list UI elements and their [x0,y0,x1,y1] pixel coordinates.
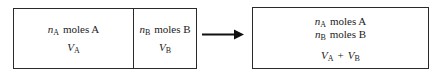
final-volume-symbol-a: V [321,49,328,61]
volume-b-subscript: B [166,46,171,55]
final-state-box: nAmoles A nBmoles B VA+VB [252,7,429,69]
plus-operator: + [338,49,344,61]
final-volume-subscript-b: B [355,54,360,63]
compartment-a: nAmoles A VA [14,9,134,68]
final-moles-b-line: nBmoles B [315,28,366,41]
initial-state-box: nAmoles A VA nBmoles B VB [13,8,197,69]
gas-mixing-diagram: nAmoles A VA nBmoles B VB nAmoles A nBmo… [0,0,444,77]
compartment-a-moles-line: nAmoles A [48,23,100,36]
final-volume-line: VA+VB [321,49,360,62]
arrow-right-icon [202,28,244,41]
final-volume-subscript-a: A [328,54,334,63]
moles-b-subscript: B [145,28,150,37]
moles-b-label: moles B [154,23,190,35]
final-moles-b-label: moles B [330,28,366,40]
volume-b-symbol: V [159,41,166,53]
volume-a-symbol: V [67,41,74,53]
moles-a-label: moles A [63,23,99,35]
compartment-a-volume-line: VA [67,41,80,54]
moles-a-subscript: A [53,28,59,37]
final-moles-a-line: nAmoles A [315,15,367,28]
compartment-b: nBmoles B VB [134,9,196,68]
final-volume-symbol-b: V [348,49,355,61]
volume-a-subscript: A [74,46,80,55]
compartment-b-moles-line: nBmoles B [139,23,190,36]
final-moles-a-label: moles A [330,15,366,27]
compartment-b-volume-line: VB [159,41,171,54]
final-moles-b-subscript: B [320,33,325,42]
